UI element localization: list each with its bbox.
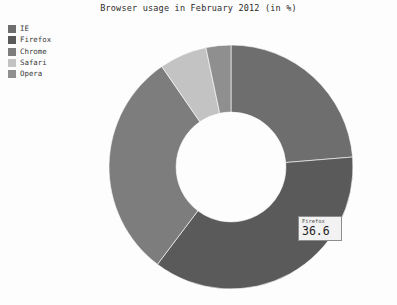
legend-label: Safari [20,58,47,68]
legend-label: Chrome [20,47,47,57]
legend-item-ie[interactable]: IE [8,24,86,35]
legend-swatch-icon [8,48,16,56]
legend-item-chrome[interactable]: Chrome [8,46,86,57]
legend-item-safari[interactable]: Safari [8,58,86,69]
donut-slices [109,45,353,289]
legend-swatch-icon [8,25,16,33]
donut-svg [108,38,354,296]
legend-label: Opera [20,69,42,79]
legend-swatch-icon [8,70,16,78]
legend-swatch-icon [8,36,16,44]
chart-legend: IE Firefox Chrome Safari Opera [8,24,86,80]
legend-item-firefox[interactable]: Firefox [8,35,86,46]
legend-label: IE [20,24,29,34]
legend-label: Firefox [20,35,51,45]
chart-title: Browser usage in February 2012 (in %) [0,3,397,13]
donut-slice-ie[interactable] [231,45,353,163]
legend-swatch-icon [8,59,16,67]
tooltip-value: 36.6 [302,225,338,238]
chart-canvas: Browser usage in February 2012 (in %) IE… [0,0,397,305]
legend-item-opera[interactable]: Opera [8,69,86,80]
slice-tooltip: Firefox 36.6 [298,216,342,241]
donut-chart [108,38,354,296]
